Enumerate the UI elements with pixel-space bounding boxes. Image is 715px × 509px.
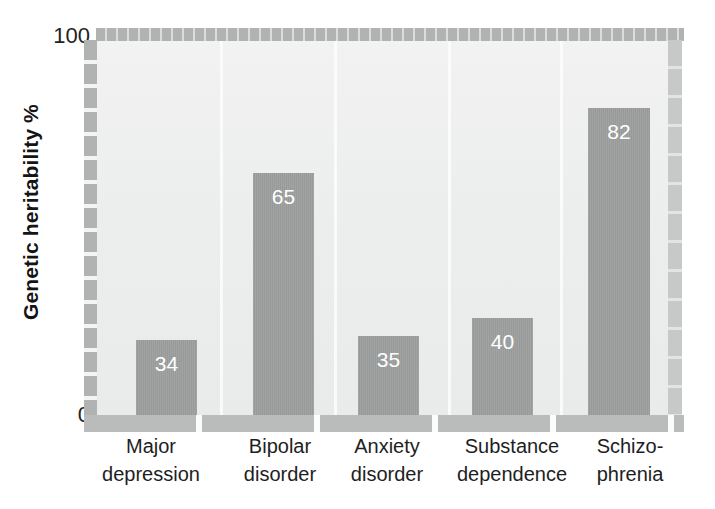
bar-value-label: 82	[588, 120, 650, 144]
x-category-label-major-depression: Major depression	[76, 432, 226, 488]
y-tick-label-100: 100	[30, 24, 90, 48]
bar-value-label: 65	[253, 185, 314, 209]
plot-area: 34 65 35 40 82	[84, 28, 684, 422]
bar-substance-dependence[interactable]: 40	[472, 318, 533, 415]
x-category-label-schizophrenia: Schizo- phrenia	[570, 432, 690, 488]
x-label-line1: Bipolar	[249, 435, 311, 457]
y-axis-top-gridline	[96, 28, 684, 41]
y-axis-title: Genetic heritability %	[17, 62, 45, 362]
category-separator	[220, 40, 223, 418]
x-category-label-substance-dependence: Substance dependence	[432, 432, 592, 488]
x-label-line1: Anxiety	[354, 435, 420, 457]
bar-anxiety-disorder[interactable]: 35	[358, 336, 419, 415]
plot-right-border	[668, 40, 682, 422]
x-label-line1: Schizo-	[597, 435, 664, 457]
x-label-line2: phrenia	[570, 460, 690, 488]
category-separator	[560, 40, 563, 418]
category-separator	[334, 40, 337, 418]
x-label-line2: depression	[76, 460, 226, 488]
bar-chart: Genetic heritability % 100 0 34 65 35 40…	[0, 0, 715, 509]
x-axis-line	[84, 415, 684, 432]
bar-value-label: 35	[358, 348, 419, 372]
bar-bipolar-disorder[interactable]: 65	[253, 173, 314, 415]
x-label-line1: Major	[126, 435, 176, 457]
bar-schizophrenia[interactable]: 82	[588, 108, 650, 415]
bar-value-label: 40	[472, 330, 533, 354]
category-separator	[448, 40, 451, 418]
bar-value-label: 34	[136, 352, 197, 376]
y-tick-label-0: 0	[30, 403, 90, 427]
y-axis-line	[84, 40, 97, 422]
x-label-line1: Substance	[465, 435, 560, 457]
x-label-line2: dependence	[432, 460, 592, 488]
bar-major-depression[interactable]: 34	[136, 340, 197, 415]
